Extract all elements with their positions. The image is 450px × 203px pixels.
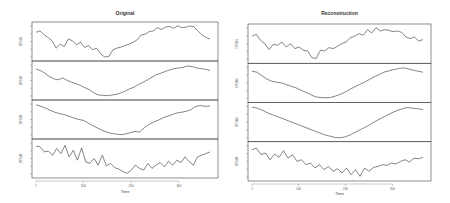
series-line-df103 bbox=[36, 105, 210, 135]
panel-frame bbox=[32, 22, 218, 61]
panel-y-label: DF104 bbox=[19, 153, 23, 163]
series-line-df101 bbox=[36, 26, 210, 57]
panel-y-label: DF103 bbox=[235, 117, 239, 127]
series-line-df101 bbox=[252, 28, 423, 59]
series-line-df104 bbox=[252, 148, 423, 176]
panel-frame bbox=[32, 100, 218, 139]
panel-y-label: DF102 bbox=[235, 78, 239, 88]
panel-frame bbox=[248, 142, 431, 181]
x-axis-label: Time bbox=[32, 189, 218, 194]
panel-frame bbox=[248, 63, 431, 102]
series-line-df103 bbox=[252, 107, 423, 138]
original-chart: Original DF101DF102DF103DF1041100200300 … bbox=[0, 0, 225, 203]
x-tick-label: 1 bbox=[35, 184, 37, 188]
x-tick-label: 300 bbox=[176, 184, 181, 188]
series-line-df104 bbox=[36, 145, 210, 173]
x-tick-label: 100 bbox=[81, 184, 86, 188]
series-line-df102 bbox=[36, 66, 210, 96]
original-plot-area: DF101DF102DF103DF1041100200300 bbox=[0, 0, 225, 203]
panel-y-label: DF102 bbox=[19, 75, 23, 85]
panel-frame bbox=[32, 61, 218, 100]
panel-y-label: DF103 bbox=[19, 114, 23, 124]
panel-frame bbox=[32, 139, 218, 178]
series-line-df102 bbox=[252, 68, 423, 98]
reconstruction-plot-area: DF101DF102DF103DF1041100200300 bbox=[225, 0, 450, 203]
x-tick-label: 200 bbox=[129, 184, 134, 188]
x-axis-label: Time bbox=[248, 191, 431, 196]
panel-y-label: DF101 bbox=[19, 36, 23, 46]
panel-y-label: DF104 bbox=[235, 156, 239, 166]
reconstruction-chart: Reconstruction DF101DF102DF103DF10411002… bbox=[225, 0, 450, 203]
panel-frame bbox=[248, 24, 431, 63]
panel-y-label: DF101 bbox=[235, 39, 239, 49]
